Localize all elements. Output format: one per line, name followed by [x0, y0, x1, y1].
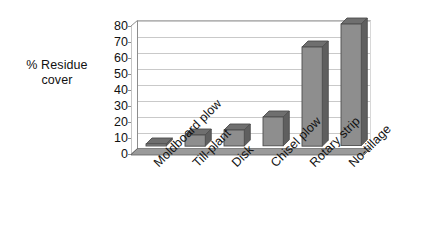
bar[interactable]	[185, 137, 205, 148]
bar-3d-body	[224, 132, 244, 148]
y-axis-title: % Residue cover	[14, 58, 100, 88]
bar-series	[131, 20, 371, 154]
y-axis-tick-label: 70	[96, 36, 128, 48]
y-axis-tick-labels: 80706050403020100	[96, 12, 128, 162]
bar-3d-body	[185, 137, 205, 148]
bar[interactable]	[224, 132, 244, 148]
bar[interactable]	[263, 119, 283, 148]
bar[interactable]	[146, 146, 166, 148]
residue-cover-bar-chart: % Residue cover 80706050403020100 Moldbo…	[0, 0, 424, 245]
bar-3d-body	[263, 119, 283, 148]
bar[interactable]	[302, 49, 322, 148]
y-axis-tick-label: 10	[96, 132, 128, 144]
bar-3d-body	[341, 26, 361, 148]
bar[interactable]	[341, 26, 361, 148]
y-axis-tick-label: 40	[96, 84, 128, 96]
y-axis-tick-label: 20	[96, 116, 128, 128]
y-axis-tick-label: 30	[96, 100, 128, 112]
bar-3d-body	[302, 49, 322, 148]
y-axis-title-line2: cover	[14, 73, 100, 88]
y-axis-tick-label: 60	[96, 52, 128, 64]
y-axis-title-line1: % Residue	[14, 58, 100, 73]
bar-3d-body	[146, 146, 166, 148]
y-axis-tick-label: 50	[96, 68, 128, 80]
y-axis-tick-label: 0	[96, 148, 128, 160]
y-axis-tick-label: 80	[96, 20, 128, 32]
